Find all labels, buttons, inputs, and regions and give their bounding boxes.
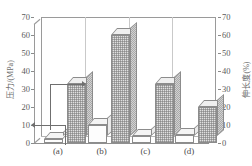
y-tick-label: 20 [222,103,238,112]
y-tick-mark [218,35,221,36]
arrow-head [31,122,35,128]
x-axis-labels: (a)(b)(c)(d) [34,146,216,162]
bar-front-face [88,125,107,143]
bar-压力-(d) [175,135,194,143]
y-tick-label: 0 [222,139,238,148]
frame-floor-front [34,143,209,144]
y-tick-label: 30 [14,85,30,94]
bar-压力-(c) [132,136,151,143]
arrow-stem [50,84,82,85]
y-tick-label: 20 [14,103,30,112]
x-axis-label-a: (a) [41,146,75,156]
y-tick-label: 40 [222,67,238,76]
bar-伸长度-(b) [111,35,130,143]
y-tick-label: 60 [14,31,30,40]
y-tick-mark [218,53,221,54]
y-tick-mark [218,89,221,90]
y-tick-label: 40 [14,67,30,76]
y-axis-right-ticks: 010203040506070 [222,0,238,166]
plot-area [34,17,216,143]
y-tick-label: 60 [222,31,238,40]
arrow-head [82,81,86,87]
y-tick-label: 10 [222,121,238,130]
y-tick-mark [218,17,221,18]
y-tick-label: 70 [222,13,238,22]
y-tick-label: 0 [14,139,30,148]
bar-front-face [198,107,217,143]
x-axis-label-d: (d) [172,146,206,156]
bar-front-face [67,84,86,143]
bar-伸长度-(d) [198,107,217,143]
y-tick-label: 50 [222,49,238,58]
arrow-drop [50,84,51,130]
chart-container: 压力/(MPa) 伸长度(%) 010203040506070 01020304… [0,0,252,166]
arrow-drop [65,125,66,145]
y-axis-left-title: 压力/(MPa) [4,50,15,110]
y-axis-left-ticks: 010203040506070 [14,0,30,166]
bar-front-face [175,135,194,143]
y-tick-mark [218,143,221,144]
bar-front-face [44,139,63,143]
y-tick-label: 70 [14,13,30,22]
bar-伸长度-(c) [155,84,174,143]
y-tick-label: 30 [222,85,238,94]
bar-front-face [155,84,174,143]
bar-side-face [217,94,224,136]
y-tick-mark [218,71,221,72]
bar-side-face [174,71,181,136]
bar-压力-(a) [44,139,63,143]
y-tick-label: 10 [14,121,30,130]
y-tick-label: 50 [14,49,30,58]
bar-压力-(b) [88,125,107,143]
bar-front-face [132,136,151,143]
bar-front-face [111,35,130,143]
x-axis-label-b: (b) [85,146,119,156]
x-axis-label-c: (c) [128,146,162,156]
y-axis-right-title: 伸长度(%) [240,50,251,110]
bar-side-face [130,22,137,136]
bar-伸长度-(a) [67,84,86,143]
